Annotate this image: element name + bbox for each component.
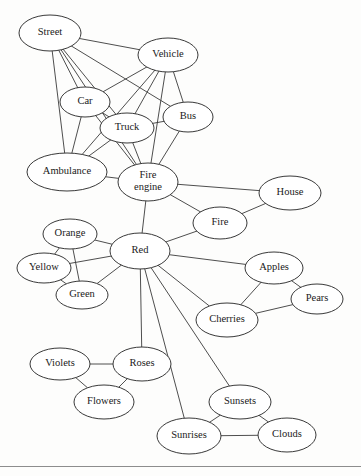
node-violets[interactable]: Violets — [30, 348, 90, 380]
node-label-ambulance: Ambulance — [43, 165, 92, 176]
node-label-line: Street — [38, 26, 63, 37]
node-label-sunrises: Sunrises — [171, 429, 207, 440]
node-label-vehicle: Vehicle — [152, 48, 184, 59]
node-label-line: Red — [132, 244, 150, 255]
node-label-truck: Truck — [115, 121, 140, 132]
edge-bus-truck — [153, 121, 164, 123]
node-clouds[interactable]: Clouds — [258, 418, 316, 452]
node-label-orange: Orange — [55, 227, 86, 238]
node-label-line: Yellow — [29, 261, 59, 272]
node-label-line: Vehicle — [152, 48, 184, 59]
edge-street-vehicle — [80, 39, 140, 50]
node-ambulance[interactable]: Ambulance — [27, 153, 107, 191]
node-label-line: Cherries — [209, 313, 245, 324]
node-label-house: House — [277, 186, 304, 197]
edge-car-ambulance — [72, 117, 81, 153]
node-truck[interactable]: Truck — [100, 113, 154, 143]
edge-orange-green — [73, 249, 79, 281]
node-label-street: Street — [38, 26, 63, 37]
node-label-line: Ambulance — [43, 165, 92, 176]
edge-sunsets-sunrises — [210, 415, 221, 422]
node-bus[interactable]: Bus — [163, 102, 213, 132]
edge-vehicle-truck — [135, 71, 159, 113]
edge-ambulance-fire_engine — [106, 177, 119, 179]
node-label-pears: Pears — [306, 292, 329, 303]
node-orange[interactable]: Orange — [43, 219, 97, 249]
edge-red-apples — [169, 255, 245, 265]
edge-fire-red — [166, 231, 197, 242]
node-cherries[interactable]: Cherries — [196, 303, 258, 337]
edge-orange-red — [95, 240, 112, 244]
node-label-sunsets: Sunsets — [224, 395, 256, 406]
node-label-car: Car — [77, 95, 93, 106]
edge-sunsets-clouds — [259, 415, 268, 422]
node-yellow[interactable]: Yellow — [17, 253, 71, 283]
edge-fire_engine-red — [142, 201, 146, 233]
node-label-yellow: Yellow — [29, 261, 59, 272]
node-car[interactable]: Car — [60, 87, 110, 117]
node-label-line: House — [277, 186, 304, 197]
node-vehicle[interactable]: Vehicle — [138, 38, 198, 72]
node-label-line: Bus — [180, 110, 196, 121]
edge-yellow-red — [70, 256, 112, 263]
edge-red-roses — [140, 269, 141, 347]
diagram-page: StreetVehicleCarBusTruckAmbulanceFireeng… — [0, 0, 361, 476]
node-label-line: Orange — [55, 227, 86, 238]
edge-fire-house — [242, 203, 266, 213]
semantic-network-graph: StreetVehicleCarBusTruckAmbulanceFireeng… — [0, 0, 361, 476]
node-label-violets: Violets — [45, 357, 75, 368]
node-label-bus: Bus — [180, 110, 196, 121]
node-green[interactable]: Green — [56, 281, 108, 309]
node-label-line: Fire — [140, 170, 157, 181]
node-fire[interactable]: Fire — [193, 207, 247, 239]
node-label-line: Flowers — [87, 395, 121, 406]
node-house[interactable]: House — [259, 176, 321, 210]
node-apples[interactable]: Apples — [245, 252, 303, 284]
edge-bus-fire_engine — [159, 131, 179, 164]
node-fire_engine[interactable]: Fireengine — [118, 163, 178, 201]
node-roses[interactable]: Roses — [113, 347, 171, 381]
node-label-flowers: Flowers — [87, 395, 121, 406]
node-label-line: engine — [134, 181, 162, 192]
node-label-line: Truck — [115, 121, 140, 132]
node-sunsets[interactable]: Sunsets — [209, 385, 271, 419]
node-label-line: Fire — [212, 216, 229, 227]
footer-divider — [0, 466, 361, 467]
node-label-line: Sunrises — [171, 429, 207, 440]
edge-violets-flowers — [76, 378, 88, 388]
edge-roses-flowers — [119, 379, 128, 388]
node-pears[interactable]: Pears — [291, 284, 343, 314]
edge-vehicle-bus — [173, 72, 183, 103]
node-street[interactable]: Street — [19, 15, 81, 51]
edge-green-red — [97, 265, 121, 283]
node-label-clouds: Clouds — [272, 428, 302, 439]
edge-yellow-green — [61, 280, 67, 284]
node-label-line: Clouds — [272, 428, 302, 439]
edge-fire_engine-fire — [170, 195, 200, 212]
node-label-line: Green — [69, 288, 95, 299]
edge-apples-cherries — [241, 282, 261, 304]
node-label-line: Apples — [259, 261, 289, 272]
node-flowers[interactable]: Flowers — [74, 385, 134, 419]
node-red[interactable]: Red — [110, 233, 170, 269]
node-label-line: Car — [77, 95, 93, 106]
edge-fire_engine-house — [178, 184, 260, 190]
node-label-apples: Apples — [259, 261, 289, 272]
node-label-fire: Fire — [212, 216, 229, 227]
node-label-line: Violets — [45, 357, 75, 368]
node-sunrises[interactable]: Sunrises — [157, 418, 221, 454]
node-label-line: Roses — [129, 357, 154, 368]
edge-orange-yellow — [55, 248, 60, 254]
node-label-line: Pears — [306, 292, 329, 303]
node-label-cherries: Cherries — [209, 313, 245, 324]
node-label-green: Green — [69, 288, 95, 299]
nodes-layer: StreetVehicleCarBusTruckAmbulanceFireeng… — [17, 15, 343, 454]
node-label-roses: Roses — [129, 357, 154, 368]
edge-red-cherries — [158, 265, 209, 306]
edge-cherries-pears — [256, 305, 293, 314]
node-label-red: Red — [132, 244, 150, 255]
edge-red-sunrises — [145, 269, 185, 418]
edge-apples-pears — [292, 281, 301, 288]
node-label-line: Sunsets — [224, 395, 256, 406]
